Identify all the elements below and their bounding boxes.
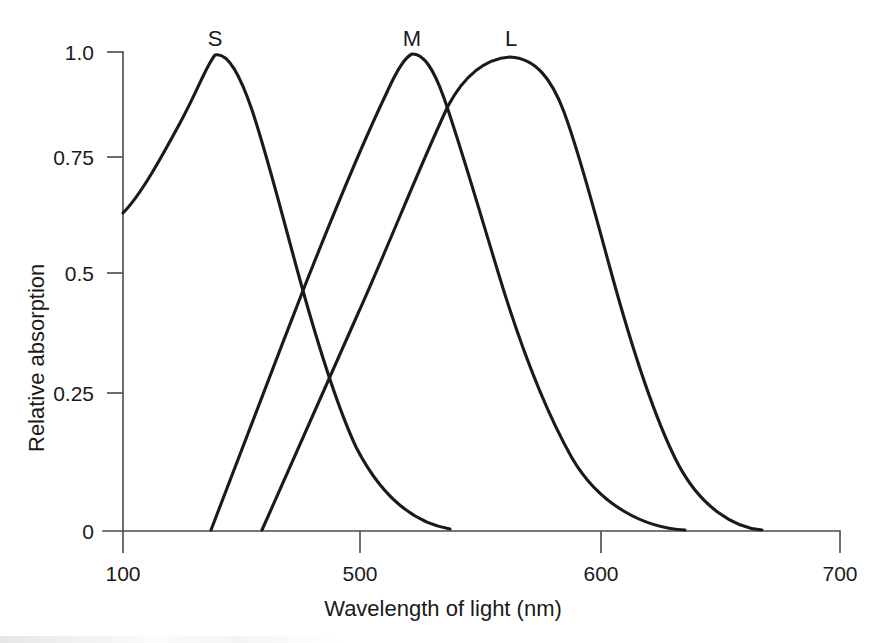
y-tick-label-0: 0 bbox=[52, 521, 94, 542]
x-tick-label-600: 600 bbox=[583, 563, 618, 584]
plot-area bbox=[0, 0, 886, 643]
curve-m-cone bbox=[211, 54, 685, 530]
x-tick-label-500: 500 bbox=[342, 563, 377, 584]
y-axis-title: Relative absorption bbox=[24, 264, 50, 452]
y-tick-label-1: 1.0 bbox=[32, 42, 94, 63]
curve-l-cone bbox=[262, 57, 762, 530]
series-label-m: M bbox=[403, 28, 421, 50]
cone-absorption-figure: 1.0 0.75 0.5 0.25 0 100 500 600 700 S M … bbox=[0, 0, 886, 643]
curve-s-cone bbox=[123, 55, 450, 529]
y-tick-label-075: 0.75 bbox=[22, 147, 94, 168]
series-label-l: L bbox=[505, 28, 517, 50]
series-label-s: S bbox=[208, 28, 223, 50]
x-axis-title: Wavelength of light (nm) bbox=[0, 596, 886, 622]
scan-edge-artifact bbox=[0, 636, 340, 643]
x-tick-label-700: 700 bbox=[822, 563, 857, 584]
x-tick-label-100: 100 bbox=[105, 563, 140, 584]
